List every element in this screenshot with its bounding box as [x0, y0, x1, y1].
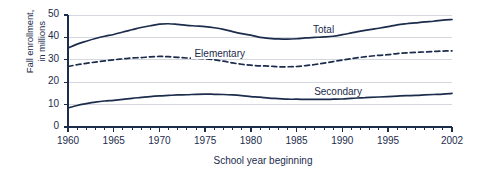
x-tick-label-2002: 2002: [432, 135, 472, 146]
x-tick-label-1980: 1980: [231, 135, 271, 146]
series-line-elementary: [68, 51, 452, 67]
y-tick-label-20: 20: [37, 75, 59, 86]
y-tick-label-10: 10: [37, 98, 59, 109]
series-line-total: [68, 19, 452, 48]
series-label-elementary: Elementary: [191, 48, 248, 59]
series-line-secondary: [68, 93, 452, 108]
data-series-group: [68, 19, 452, 107]
x-tick-label-1985: 1985: [277, 135, 317, 146]
x-tick-label-1970: 1970: [139, 135, 179, 146]
chart-figure: Fall enrollment, in millions School year…: [0, 0, 487, 178]
y-tick-label-30: 30: [37, 53, 59, 64]
series-label-secondary: Secondary: [311, 86, 365, 97]
x-tick-label-1990: 1990: [322, 135, 362, 146]
x-tick-label-1960: 1960: [48, 135, 88, 146]
x-tick-label-1975: 1975: [185, 135, 225, 146]
y-axis-title-line1: Fall enrollment,: [24, 10, 35, 73]
x-axis-title: School year beginning: [163, 155, 363, 166]
y-tick-label-0: 0: [37, 120, 59, 131]
x-tick-label-1995: 1995: [368, 135, 408, 146]
y-tick-label-40: 40: [37, 30, 59, 41]
y-tick-label-50: 50: [37, 8, 59, 19]
series-label-total: Total: [310, 24, 337, 35]
x-tick-label-1965: 1965: [94, 135, 134, 146]
line-chart-plot: [0, 0, 487, 178]
